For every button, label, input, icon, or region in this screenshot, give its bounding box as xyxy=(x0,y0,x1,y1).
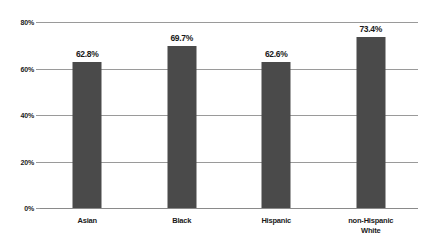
x-axis-category-label: non-Hispanic White xyxy=(324,216,419,236)
y-axis-tick-label: 0% xyxy=(0,205,34,212)
bar-value-label: 62.6% xyxy=(265,49,288,59)
y-axis-tick-label: 20% xyxy=(0,158,34,165)
x-axis-category-label: Asian xyxy=(40,216,135,226)
y-axis-tick-label: 40% xyxy=(0,112,34,119)
bar-group: 62.6% xyxy=(229,22,324,208)
bar[interactable] xyxy=(356,37,385,208)
y-axis-tick-label: 80% xyxy=(0,19,34,26)
bar[interactable] xyxy=(167,46,196,208)
bars-layer: 62.8%69.7%62.6%73.4% xyxy=(40,22,418,208)
y-axis-tick-mark xyxy=(36,208,40,209)
bar[interactable] xyxy=(262,62,291,208)
bar[interactable] xyxy=(73,62,102,208)
bar-value-label: 62.8% xyxy=(76,49,99,59)
bar-value-label: 73.4% xyxy=(359,24,382,34)
x-axis-labels: AsianBlackHispanicnon-Hispanic White xyxy=(40,216,418,250)
x-axis-category-label: Hispanic xyxy=(229,216,324,226)
x-axis-category-label: Black xyxy=(135,216,230,226)
y-axis-tick-label: 60% xyxy=(0,65,34,72)
bar-chart: 0%20%40%60%80% 62.8%69.7%62.6%73.4% Asia… xyxy=(0,0,440,250)
bar-group: 69.7% xyxy=(135,22,230,208)
bar-group: 73.4% xyxy=(324,22,419,208)
bar-group: 62.8% xyxy=(40,22,135,208)
bar-value-label: 69.7% xyxy=(170,33,193,43)
gridline-0 xyxy=(40,208,418,209)
